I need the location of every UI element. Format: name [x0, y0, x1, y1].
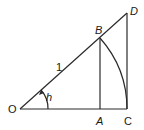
point-label-O: O: [8, 103, 17, 115]
point-label-C: C: [124, 115, 132, 127]
arc-BC: [100, 38, 127, 109]
segment-OD: [20, 13, 127, 109]
angle-label: h: [46, 91, 52, 103]
point-label-A: A: [95, 115, 103, 127]
unit-circle-tangent-diagram: O A C B D 1 h: [0, 0, 144, 130]
point-label-B: B: [95, 24, 102, 36]
point-label-D: D: [130, 5, 138, 17]
segment-label-OB: 1: [56, 61, 62, 73]
